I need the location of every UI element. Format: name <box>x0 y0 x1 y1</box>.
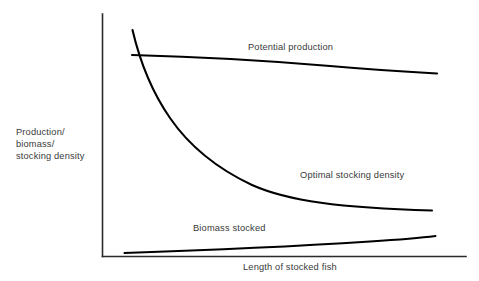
curve-biomass-stocked <box>125 236 436 253</box>
series-label-optimal-stocking-density: Optimal stocking density <box>300 169 404 181</box>
curve-potential-production <box>132 55 437 74</box>
chart-figure: Production/ biomass/ stocking density Le… <box>0 0 479 281</box>
y-axis-label-line-3: stocking density <box>16 151 85 161</box>
x-axis-label: Length of stocked fish <box>243 261 337 273</box>
y-axis-label-line-1: Production/ <box>16 127 65 137</box>
y-axis-label: Production/ biomass/ stocking density <box>16 126 102 163</box>
y-axis-label-line-2: biomass/ <box>16 139 54 149</box>
series-label-potential-production: Potential production <box>248 41 333 53</box>
series-label-biomass-stocked: Biomass stocked <box>193 222 266 234</box>
